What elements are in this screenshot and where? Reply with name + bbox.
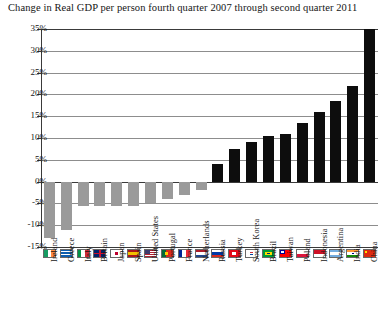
bar-russia: [212, 164, 223, 181]
country-label: United States: [151, 216, 160, 262]
x-axis-item: United States: [144, 249, 158, 258]
country-label: Netherlands: [202, 220, 211, 262]
bar-taiwan: [280, 134, 291, 182]
country-label: South Korea: [252, 219, 261, 262]
country-label: Greece: [67, 238, 76, 262]
x-axis-item: Spain: [127, 249, 141, 258]
x-axis-item: Poland: [296, 249, 310, 258]
chart-title: Change in Real GDP per person fourth qua…: [8, 2, 357, 13]
bar-south-korea: [246, 142, 257, 181]
x-axis-labels-container: IrelandGreeceItalyBritainJapanSpainUnite…: [41, 249, 378, 334]
x-axis-item: Ireland: [43, 249, 57, 258]
bar-britain: [94, 182, 105, 206]
bar-poland: [297, 123, 308, 182]
x-axis-item: Taiwan: [279, 249, 293, 258]
country-label: Argentina: [336, 228, 345, 262]
x-axis-item: Netherlands: [195, 249, 209, 258]
bars-container: [41, 29, 378, 247]
bar-india: [347, 86, 358, 182]
country-label: Turkey: [235, 238, 244, 263]
country-label: India: [353, 244, 362, 262]
bar-portugal: [162, 182, 173, 199]
bar-brazil: [263, 136, 274, 182]
x-axis-item: Portugal: [161, 249, 175, 258]
bar-france: [179, 182, 190, 195]
x-axis-item: Italy: [77, 249, 91, 258]
country-label: Russia: [218, 239, 227, 262]
country-label: Spain: [134, 242, 143, 262]
country-label: Poland: [303, 238, 312, 262]
country-label: Japan: [117, 242, 126, 262]
bar-japan: [111, 182, 122, 206]
x-axis-item: India: [346, 249, 360, 258]
bar-netherlands: [196, 182, 207, 191]
bar-china: [364, 29, 375, 182]
x-axis-item: Greece: [60, 249, 74, 258]
x-axis-item: Turkey: [228, 249, 242, 258]
bar-greece: [61, 182, 72, 230]
x-axis-item: China: [363, 249, 377, 258]
country-label: Ireland: [50, 238, 59, 262]
x-axis-item: Indonesia: [313, 249, 327, 258]
country-label: Britain: [100, 238, 109, 262]
x-axis-item: Britain: [93, 249, 107, 258]
bar-turkey: [229, 149, 240, 182]
country-label: Indonesia: [320, 229, 329, 262]
x-axis-item: Argentina: [329, 249, 343, 258]
country-label: Portugal: [168, 233, 177, 262]
gdp-change-bar-chart: Change in Real GDP per person fourth qua…: [0, 0, 391, 334]
bar-united-states: [145, 182, 156, 204]
x-axis-item: Brazil: [262, 249, 276, 258]
x-axis-item: South Korea: [245, 249, 259, 258]
bar-ireland: [44, 182, 55, 239]
x-axis-item: Russia: [211, 249, 225, 258]
country-label: France: [185, 239, 194, 262]
country-label: Taiwan: [286, 237, 295, 262]
country-label: China: [370, 241, 379, 262]
bar-italy: [78, 182, 89, 206]
country-label: Brazil: [269, 241, 278, 262]
x-axis-item: France: [178, 249, 192, 258]
bar-spain: [128, 182, 139, 206]
x-axis-item: Japan: [110, 249, 124, 258]
country-label: Italy: [84, 246, 93, 262]
bar-indonesia: [314, 112, 325, 182]
bar-argentina: [330, 101, 341, 182]
